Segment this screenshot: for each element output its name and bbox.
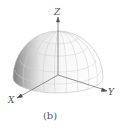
x-arrow-icon: [17, 94, 23, 98]
y-arrow-icon: [102, 88, 108, 92]
hemisphere-figure: Z X Y (b): [0, 0, 122, 134]
x-axis-label: X: [8, 96, 14, 105]
z-arrow-icon: [57, 17, 60, 22]
z-axis-label: Z: [54, 8, 60, 17]
y-axis-label: Y: [108, 88, 114, 97]
figure-caption: (b): [30, 110, 70, 121]
